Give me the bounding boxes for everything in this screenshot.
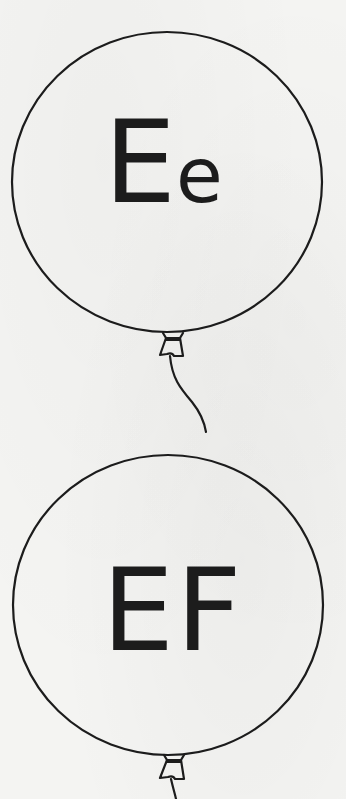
balloon-1-string [170,356,206,432]
balloon-2-string [171,779,176,799]
balloon-2-upper-letters: EF [102,554,244,668]
balloon-2-knot-icon [160,755,184,779]
balloon-1-lower-letter: e [176,138,223,214]
balloon-1 [12,32,322,432]
balloon-1-upper-letter: E [104,106,176,220]
balloon-1-knot-icon [160,333,183,356]
balloon-1-letters: Ee [104,106,223,220]
balloon-2-letters: EF [102,554,244,668]
